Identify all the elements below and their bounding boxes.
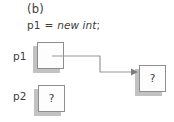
memory-cell-p1 <box>37 42 64 69</box>
pointer-arrow-path <box>52 56 132 72</box>
code-operator: = <box>44 19 53 31</box>
code-terminator: ; <box>97 19 101 31</box>
memory-cell-p2-value: ? <box>49 93 55 104</box>
code-keyword: new int <box>57 19 96 31</box>
variable-label-p1: p1 <box>13 50 27 62</box>
memory-cell-p2: ? <box>38 85 65 112</box>
code-statement: p1 = new int; <box>27 19 100 31</box>
variable-label-p2: p2 <box>13 90 27 102</box>
code-target: p1 <box>27 19 41 31</box>
memory-cell-heap-value: ? <box>150 73 156 84</box>
pointer-diagram-figure: (b) p1 = new int; p1 p2 ? ? <box>0 0 174 122</box>
panel-label: (b) <box>27 2 44 16</box>
memory-cell-heap: ? <box>139 65 166 92</box>
